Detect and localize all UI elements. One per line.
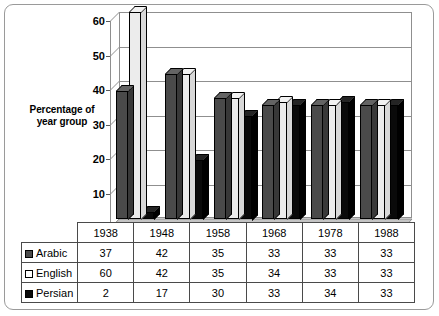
table-cell-english-1938: 60 <box>78 263 134 283</box>
bar-side-face <box>372 99 378 220</box>
bar-arabic-1938 <box>116 91 128 219</box>
bar-arabic-1968 <box>262 105 274 219</box>
table-row: Arabic374235333333 <box>22 243 415 263</box>
table-column-header-1938: 1938 <box>78 223 134 243</box>
bar-side-face <box>300 99 306 220</box>
table-cell-arabic-1958: 35 <box>190 243 246 263</box>
bars-group <box>110 12 422 228</box>
legend-swatch-english-icon <box>25 270 33 278</box>
table-cell-persian-1938: 2 <box>78 283 134 303</box>
data-table: 193819481958196819781988Arabic3742353333… <box>21 222 415 303</box>
bar-side-face <box>239 92 245 220</box>
legend-cell-english: English <box>22 263 78 283</box>
plot-area: 0102030405060 <box>110 12 422 228</box>
bar-front-face <box>116 91 128 219</box>
table-cell-english-1948: 42 <box>134 263 190 283</box>
bar-side-face <box>385 99 391 220</box>
legend-label-english: English <box>36 267 72 279</box>
bar-front-face <box>214 98 226 219</box>
legend-label-persian: Persian <box>36 287 73 299</box>
bar-side-face <box>398 99 404 220</box>
bar-side-face <box>203 154 209 220</box>
legend-swatch-arabic-icon <box>25 250 33 258</box>
legend-cell-arabic: Arabic <box>22 243 78 263</box>
bar-side-face <box>323 99 329 220</box>
bar-side-face <box>349 96 355 220</box>
table-cell-arabic-1988: 33 <box>358 243 414 263</box>
bar-side-face <box>141 6 147 220</box>
table-cell-persian-1948: 17 <box>134 283 190 303</box>
legend-swatch-persian-icon <box>25 290 33 298</box>
table-cell-persian-1978: 34 <box>302 283 358 303</box>
table-cell-english-1978: 33 <box>302 263 358 283</box>
table-cell-english-1988: 33 <box>358 263 414 283</box>
bar-side-face <box>252 110 258 221</box>
table-header-row: 193819481958196819781988 <box>22 223 415 243</box>
table-cell-english-1958: 35 <box>190 263 246 283</box>
bar-chart-figure: Percentage of year group 0102030405060 1… <box>0 0 439 316</box>
table-column-header-1978: 1978 <box>302 223 358 243</box>
table-cell-persian-1988: 33 <box>358 283 414 303</box>
y-axis-title-line-1: Percentage of <box>14 104 110 116</box>
table-row: English604235343333 <box>22 263 415 283</box>
bar-front-face <box>360 105 372 219</box>
table-column-header-1948: 1948 <box>134 223 190 243</box>
bar-side-face <box>336 99 342 220</box>
legend-label-arabic: Arabic <box>36 247 67 259</box>
legend-cell-persian: Persian <box>22 283 78 303</box>
bar-front-face <box>165 74 177 219</box>
bar-side-face <box>287 96 293 220</box>
table-column-header-1958: 1958 <box>190 223 246 243</box>
table-corner-cell <box>22 223 78 243</box>
bar-front-face <box>262 105 274 219</box>
table-cell-english-1968: 34 <box>246 263 302 283</box>
bar-arabic-1988 <box>360 105 372 219</box>
bar-side-face <box>128 85 134 220</box>
bar-side-face <box>226 92 232 220</box>
data-table-wrapper: 193819481958196819781988Arabic3742353333… <box>21 222 415 304</box>
table-cell-arabic-1968: 33 <box>246 243 302 263</box>
bar-arabic-1948 <box>165 74 177 219</box>
table-cell-persian-1958: 30 <box>190 283 246 303</box>
bar-side-face <box>190 68 196 220</box>
table-column-header-1988: 1988 <box>358 223 414 243</box>
bar-front-face <box>311 105 323 219</box>
bar-arabic-1958 <box>214 98 226 219</box>
table-cell-arabic-1948: 42 <box>134 243 190 263</box>
table-cell-arabic-1938: 37 <box>78 243 134 263</box>
bar-arabic-1978 <box>311 105 323 219</box>
table-cell-arabic-1978: 33 <box>302 243 358 263</box>
table-column-header-1968: 1968 <box>246 223 302 243</box>
bar-side-face <box>274 99 280 220</box>
table-row: Persian21730333433 <box>22 283 415 303</box>
bar-side-face <box>177 68 183 220</box>
table-cell-persian-1968: 33 <box>246 283 302 303</box>
